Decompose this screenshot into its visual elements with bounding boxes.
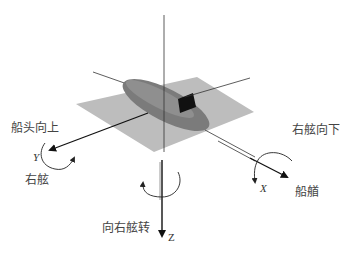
roll-rotation-arrow: [254, 153, 292, 182]
z-axis-letter: Z: [168, 232, 175, 243]
roll-label: 右舷向下: [292, 124, 340, 136]
x-axis-line: [205, 130, 255, 157]
yaw-label: 向右舷转: [102, 222, 150, 234]
x-axis-line-2: [218, 141, 255, 161]
starboard-label: 右舷: [25, 174, 49, 186]
y-axis-letter: Y: [33, 152, 39, 163]
pitch-label: 船头向上: [11, 122, 59, 134]
x-axis-letter: X: [260, 183, 267, 194]
bow-label: 船艏: [295, 186, 319, 198]
